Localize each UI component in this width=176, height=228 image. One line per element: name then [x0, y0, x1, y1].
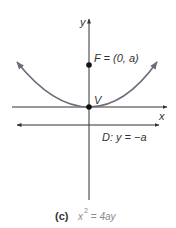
vertex-point	[86, 104, 92, 110]
directrix-label: D: y = −a	[102, 131, 147, 143]
caption-tag: (c)	[55, 210, 69, 222]
parabola-diagram: y x F = (0, a) V D: y = −a (c) x 2 = 4ay	[0, 0, 176, 228]
vertex-label: V	[94, 94, 103, 106]
y-axis-label: y	[79, 16, 87, 28]
focus-point	[86, 62, 92, 68]
x-axis-label: x	[158, 110, 165, 122]
focus-label: F = (0, a)	[94, 52, 139, 64]
parabola-curve	[17, 62, 157, 107]
caption-eq-base: x	[77, 211, 84, 222]
caption-eq-rest: = 4ay	[88, 211, 117, 222]
